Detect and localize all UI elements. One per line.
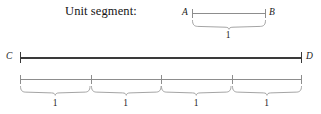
brace-unit-ab xyxy=(192,20,266,30)
figure-caption: Unit segment: xyxy=(65,5,137,18)
point-label-c: C xyxy=(6,52,12,62)
brace-unit-3 xyxy=(161,86,232,96)
brace-unit-4 xyxy=(232,86,302,96)
unit-measure-label-1: 1 xyxy=(45,99,65,109)
tick-b xyxy=(265,9,266,18)
unit-measure-label-3: 1 xyxy=(186,99,206,109)
point-label-a: A xyxy=(182,8,188,18)
segment-ab-line xyxy=(192,13,266,14)
point-label-b: B xyxy=(269,8,275,18)
brace-unit-2 xyxy=(91,86,162,96)
unit-measure-label-4: 1 xyxy=(257,99,277,109)
subdivision-tick-4 xyxy=(301,75,302,84)
brace-unit-1 xyxy=(20,86,91,96)
tick-d xyxy=(301,52,302,63)
segment-cd-line xyxy=(20,57,302,59)
unit-segment-figure: Unit segment: A B 1 C D 1 1 1 1 xyxy=(0,0,321,114)
subdivision-tick-1 xyxy=(91,75,92,84)
subdivision-tick-3 xyxy=(232,75,233,84)
unit-measure-label-ab: 1 xyxy=(218,31,238,41)
subdivision-tick-2 xyxy=(161,75,162,84)
point-label-d: D xyxy=(306,52,313,62)
subdivision-tick-0 xyxy=(20,75,21,84)
unit-measure-label-2: 1 xyxy=(116,99,136,109)
